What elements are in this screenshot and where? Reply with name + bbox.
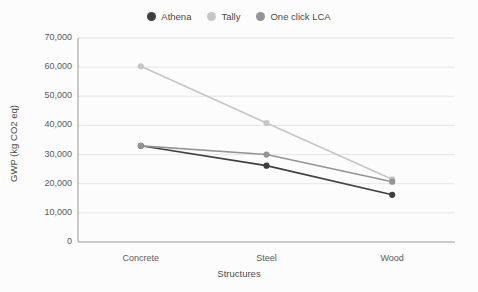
y-axis-title: GWP (kg CO2 eq) xyxy=(8,84,19,204)
x-axis-title: Structures xyxy=(0,268,478,279)
x-axis-tick-label: Steel xyxy=(256,254,277,263)
x-axis-tick-label: Wood xyxy=(380,254,403,263)
line-chart: Athena Tally One click LCA 010,00020,000… xyxy=(0,0,478,292)
x-axis-tick-label: Concrete xyxy=(123,254,160,263)
x-axis-tick-labels: ConcreteSteelWood xyxy=(0,0,478,292)
